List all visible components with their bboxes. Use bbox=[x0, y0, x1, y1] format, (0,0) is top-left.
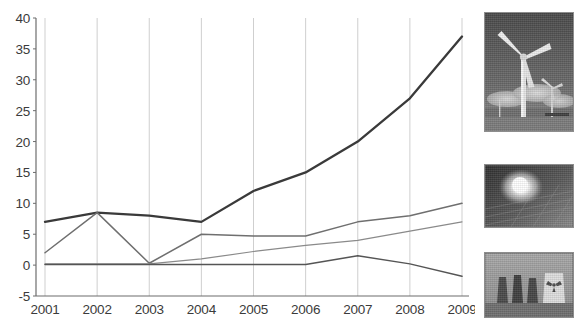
x-tick-label: 2004 bbox=[187, 302, 217, 317]
y-tick-label: 30 bbox=[15, 73, 30, 88]
y-tick-label: 10 bbox=[15, 196, 30, 211]
x-tick-label: 2008 bbox=[395, 302, 424, 317]
photo-column bbox=[484, 12, 576, 324]
y-tick-label: -5 bbox=[18, 289, 30, 304]
solar-panel-photo bbox=[484, 164, 574, 228]
wind-turbine-illustration bbox=[485, 13, 573, 131]
y-tick-label: 20 bbox=[15, 135, 30, 150]
y-tick-label: 40 bbox=[15, 11, 30, 26]
y-tick-label: 15 bbox=[15, 165, 30, 180]
x-tick-labels: 200120022003200420052006200720082009 bbox=[30, 302, 475, 317]
x-tick-label: 2002 bbox=[83, 302, 112, 317]
x-tick-label: 2005 bbox=[239, 302, 268, 317]
x-tick-label: 2001 bbox=[30, 302, 59, 317]
y-tick-label: 35 bbox=[15, 42, 30, 57]
cooling-towers-photo bbox=[484, 252, 574, 318]
x-tick-label: 2007 bbox=[343, 302, 372, 317]
chart-canvas: 4035302520151050-5 200120022003200420052… bbox=[0, 0, 475, 330]
x-tick-label: 2009 bbox=[447, 302, 475, 317]
y-tick-labels: 4035302520151050-5 bbox=[15, 11, 36, 304]
y-tick-label: 0 bbox=[23, 258, 30, 273]
grid-lines bbox=[45, 18, 462, 296]
solar-panel-illustration bbox=[485, 165, 573, 227]
chart-page: 4035302520151050-5 200120022003200420052… bbox=[0, 0, 579, 330]
wind-turbine-photo bbox=[484, 12, 574, 132]
cooling-towers-illustration bbox=[485, 253, 573, 317]
x-tick-label: 2006 bbox=[291, 302, 320, 317]
y-tick-label: 5 bbox=[23, 227, 30, 242]
y-tick-label: 25 bbox=[15, 104, 30, 119]
line-chart: 4035302520151050-5 200120022003200420052… bbox=[0, 0, 475, 330]
x-tick-label: 2003 bbox=[135, 302, 164, 317]
